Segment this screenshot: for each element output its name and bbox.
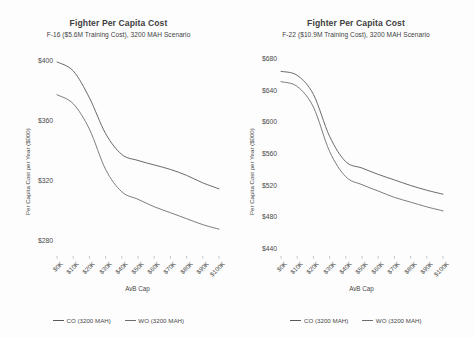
legend-label-wo: WO (3200 MAH)	[376, 317, 422, 324]
chart-panel-f16: Fighter Per Capita Cost F-16 ($5.6M Trai…	[0, 0, 237, 338]
y-axis-tick-label: $520	[251, 182, 277, 189]
legend-swatch-wo-icon	[125, 320, 136, 321]
legend-label-wo: WO (3200 MAH)	[138, 317, 184, 324]
chart-legend-f16: CO (3200 MAH) WO (3200 MAH)	[0, 317, 237, 324]
legend-label-co: CO (3200 MAH)	[66, 317, 110, 324]
y-axis-tick-label: $280	[27, 237, 53, 244]
y-axis-tick-label: $320	[27, 177, 53, 184]
legend-swatch-co-icon	[290, 320, 301, 321]
x-axis-title: AvB Cap	[279, 285, 444, 292]
legend-item-wo[interactable]: WO (3200 MAH)	[125, 317, 184, 324]
legend-swatch-co-icon	[53, 320, 64, 321]
y-axis-tick-label: $440	[251, 245, 277, 252]
y-axis-tick-label: $360	[27, 117, 53, 124]
y-axis-tick-label: $400	[27, 57, 53, 64]
x-axis-title: AvB Cap	[55, 285, 220, 292]
legend-item-co[interactable]: CO (3200 MAH)	[290, 317, 348, 324]
y-axis-tick-label: $560	[251, 150, 277, 157]
y-axis-tick-label: $600	[251, 118, 277, 125]
y-axis-tick-label: $640	[251, 87, 277, 94]
legend-item-co[interactable]: CO (3200 MAH)	[53, 317, 111, 324]
y-axis-tick-label: $480	[251, 213, 277, 220]
chart-page: Fighter Per Capita Cost F-16 ($5.6M Trai…	[0, 0, 475, 338]
legend-item-wo[interactable]: WO (3200 MAH)	[362, 317, 421, 324]
chart-legend-f22: CO (3200 MAH) WO (3200 MAH)	[237, 317, 475, 324]
y-axis-title: Per Capita Cost per Year ($000)	[24, 128, 31, 215]
y-axis-tick-label: $680	[251, 55, 277, 62]
chart-panel-f22: Fighter Per Capita Cost F-22 ($10.9M Tra…	[237, 0, 475, 338]
legend-swatch-wo-icon	[362, 320, 373, 321]
y-axis-title: Per Capita Cost per Year ($000)	[248, 128, 255, 215]
legend-label-co: CO (3200 MAH)	[304, 317, 348, 324]
